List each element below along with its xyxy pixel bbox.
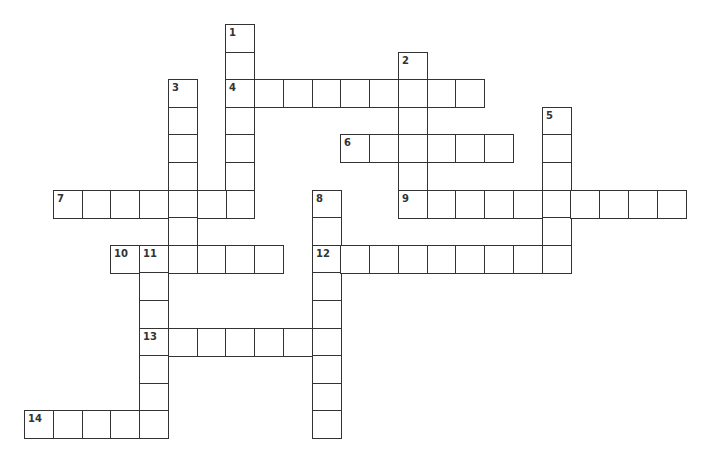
clue-number: 14 — [28, 413, 42, 424]
crossword-cell[interactable] — [53, 410, 83, 439]
crossword-cell[interactable]: 11 — [139, 245, 169, 274]
crossword-cell[interactable]: 5 — [542, 107, 572, 136]
crossword-cell[interactable] — [427, 190, 457, 219]
crossword-cell[interactable]: 7 — [53, 190, 83, 219]
crossword-cell[interactable] — [168, 328, 198, 357]
crossword-cell[interactable] — [225, 245, 255, 274]
crossword-cell[interactable] — [312, 383, 342, 412]
crossword-cell[interactable] — [427, 79, 457, 108]
crossword-cell[interactable] — [312, 355, 342, 384]
crossword-cell[interactable] — [168, 245, 198, 274]
crossword-cell[interactable] — [225, 328, 255, 357]
clue-number: 7 — [57, 193, 64, 204]
crossword-cell[interactable] — [398, 245, 428, 274]
clue-number: 1 — [229, 27, 236, 38]
crossword-cell[interactable] — [197, 328, 227, 357]
crossword-cell[interactable] — [82, 190, 112, 219]
crossword-cell[interactable] — [455, 190, 485, 219]
crossword-cell[interactable] — [197, 245, 227, 274]
crossword-cell[interactable] — [427, 134, 457, 163]
crossword-cell[interactable] — [254, 79, 284, 108]
crossword-cell[interactable]: 1 — [225, 24, 255, 53]
crossword-cell[interactable] — [225, 52, 255, 81]
crossword-cell[interactable] — [110, 410, 140, 439]
crossword-cell[interactable] — [283, 79, 313, 108]
clue-number: 3 — [172, 82, 179, 93]
crossword-cell[interactable] — [82, 410, 112, 439]
crossword-cell[interactable]: 4 — [225, 79, 255, 108]
crossword-cell[interactable] — [225, 190, 255, 219]
crossword-cell[interactable]: 6 — [340, 134, 370, 163]
crossword-cell[interactable] — [254, 328, 284, 357]
crossword-cell[interactable] — [312, 79, 342, 108]
crossword-cell[interactable] — [398, 79, 428, 108]
crossword-cell[interactable] — [599, 190, 629, 219]
crossword-cell[interactable]: 9 — [398, 190, 428, 219]
crossword-cell[interactable] — [542, 162, 572, 191]
clue-number: 13 — [143, 331, 157, 342]
clue-number: 6 — [344, 137, 351, 148]
clue-number: 5 — [546, 110, 553, 121]
crossword-cell[interactable] — [139, 272, 169, 301]
crossword-cell[interactable]: 14 — [24, 410, 54, 439]
crossword-cell[interactable] — [168, 162, 198, 191]
crossword-cell[interactable] — [254, 245, 284, 274]
crossword-cell[interactable] — [312, 328, 342, 357]
crossword-cell[interactable] — [542, 190, 572, 219]
crossword-cell[interactable] — [570, 190, 600, 219]
crossword-cell[interactable] — [168, 190, 198, 219]
crossword-cell[interactable] — [398, 162, 428, 191]
clue-number: 11 — [143, 248, 157, 259]
crossword-cell[interactable] — [197, 190, 227, 219]
crossword-cell[interactable] — [513, 245, 543, 274]
crossword-cell[interactable] — [398, 134, 428, 163]
crossword-cell[interactable] — [139, 383, 169, 412]
clue-number: 9 — [402, 193, 409, 204]
crossword-cell[interactable] — [340, 245, 370, 274]
crossword-cell[interactable] — [139, 300, 169, 329]
crossword-cell[interactable] — [455, 79, 485, 108]
crossword-cell[interactable]: 12 — [312, 245, 342, 274]
crossword-cell[interactable] — [225, 107, 255, 136]
crossword-cell[interactable]: 10 — [110, 245, 140, 274]
crossword-cell[interactable] — [312, 300, 342, 329]
crossword-cell[interactable] — [542, 134, 572, 163]
crossword-cell[interactable] — [369, 245, 399, 274]
crossword-cell[interactable] — [312, 272, 342, 301]
crossword-cell[interactable] — [542, 245, 572, 274]
crossword-cell[interactable] — [283, 328, 313, 357]
clue-number: 4 — [229, 82, 236, 93]
crossword-cell[interactable] — [168, 134, 198, 163]
crossword-cell[interactable] — [225, 134, 255, 163]
clue-number: 10 — [114, 248, 128, 259]
crossword-cell[interactable] — [139, 355, 169, 384]
clue-number: 12 — [316, 248, 330, 259]
crossword-cell[interactable] — [369, 79, 399, 108]
clue-number: 8 — [316, 193, 323, 204]
crossword-cell[interactable] — [484, 190, 514, 219]
crossword-cell[interactable] — [312, 410, 342, 439]
crossword-cell[interactable] — [340, 79, 370, 108]
crossword-cell[interactable] — [312, 217, 342, 246]
crossword-cell[interactable] — [139, 410, 169, 439]
crossword-cell[interactable]: 2 — [398, 52, 428, 81]
crossword-cell[interactable] — [542, 217, 572, 246]
crossword-cell[interactable] — [225, 162, 255, 191]
crossword-cell[interactable] — [455, 245, 485, 274]
crossword-cell[interactable] — [657, 190, 687, 219]
crossword-cell[interactable]: 3 — [168, 79, 198, 108]
crossword-cell[interactable]: 8 — [312, 190, 342, 219]
crossword-cell[interactable] — [427, 245, 457, 274]
crossword-cell[interactable] — [455, 134, 485, 163]
crossword-cell[interactable] — [484, 245, 514, 274]
crossword-cell[interactable] — [168, 107, 198, 136]
crossword-cell[interactable] — [369, 134, 399, 163]
crossword-cell[interactable] — [139, 190, 169, 219]
crossword-cell[interactable] — [513, 190, 543, 219]
crossword-cell[interactable]: 13 — [139, 328, 169, 357]
crossword-cell[interactable] — [484, 134, 514, 163]
crossword-cell[interactable] — [628, 190, 658, 219]
crossword-cell[interactable] — [110, 190, 140, 219]
crossword-cell[interactable] — [168, 217, 198, 246]
crossword-cell[interactable] — [398, 107, 428, 136]
